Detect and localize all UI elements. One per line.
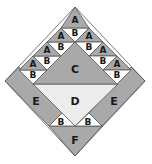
label-b-top: B <box>72 28 79 38</box>
label-e-left: E <box>32 95 40 108</box>
label-b-left-4: B <box>30 70 37 80</box>
label-b-left-3: B <box>44 56 51 66</box>
label-a-right-4: A <box>114 59 121 69</box>
quilt-block-diagram: A B A B A B A B A B A B A B C D E E B B … <box>0 0 152 164</box>
label-c: C <box>71 63 79 76</box>
label-b-left-2: B <box>58 42 65 52</box>
label-a-left-3: A <box>44 45 51 55</box>
label-b-bottom-left: B <box>58 117 65 127</box>
label-d: D <box>70 95 79 108</box>
label-a-right-2: A <box>86 31 93 41</box>
label-a-left-2: A <box>58 31 65 41</box>
label-b-right-2: B <box>86 42 93 52</box>
label-f: F <box>71 134 79 147</box>
label-a-right-3: A <box>100 45 107 55</box>
label-b-right-4: B <box>114 70 121 80</box>
diagram-canvas: A B A B A B A B A B A B A B C D E E B B … <box>0 0 152 164</box>
label-b-bottom-right: B <box>85 117 92 127</box>
label-e-right: E <box>110 95 118 108</box>
label-a-left-4: A <box>30 59 37 69</box>
label-b-right-3: B <box>100 56 107 66</box>
label-a-top: A <box>72 15 79 25</box>
